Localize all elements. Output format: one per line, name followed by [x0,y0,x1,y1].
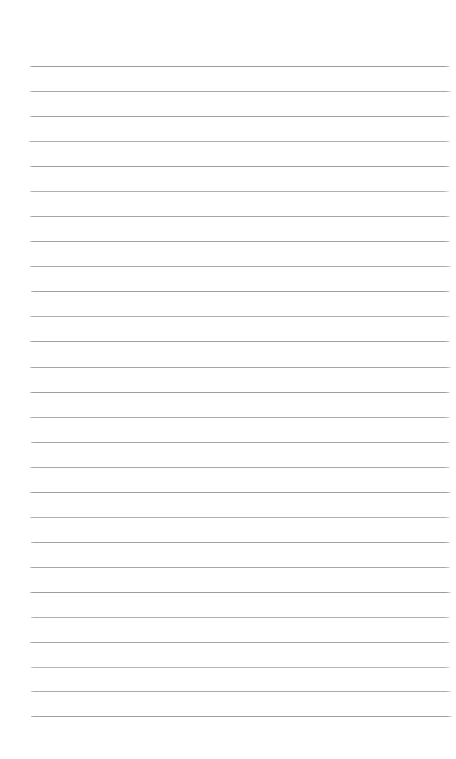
paper-surface [0,0,456,759]
lined-paper-page [0,0,456,759]
